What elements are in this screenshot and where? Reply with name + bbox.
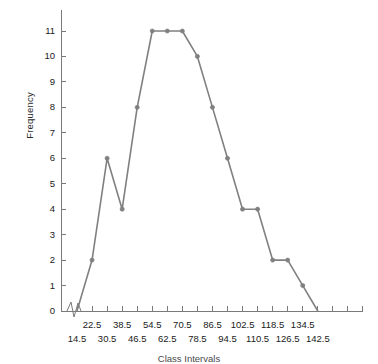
y-tick-label: 1 xyxy=(33,281,55,291)
y-tick-label: 5 xyxy=(33,179,55,189)
x-tick-label-top: 118.5 xyxy=(256,320,290,330)
y-tick-label: 8 xyxy=(33,102,55,112)
x-tick-label-top: 102.5 xyxy=(226,320,260,330)
y-tick-label: 3 xyxy=(33,230,55,240)
x-tick-label-bottom: 46.5 xyxy=(120,334,154,344)
data-point-marker xyxy=(301,283,305,287)
y-tick-label: 7 xyxy=(33,128,55,138)
x-tick-label-bottom: 30.5 xyxy=(90,334,124,344)
x-tick-label-top: 70.5 xyxy=(165,320,199,330)
data-point-marker xyxy=(195,54,199,58)
x-tick-label-bottom: 94.5 xyxy=(211,334,245,344)
x-tick-label-bottom: 14.5 xyxy=(60,334,94,344)
data-point-marker xyxy=(240,207,244,211)
y-tick-label: 9 xyxy=(33,77,55,87)
data-point-marker xyxy=(105,156,109,160)
x-tick-label-top: 54.5 xyxy=(135,320,169,330)
x-tick-label-bottom: 78.5 xyxy=(180,334,214,344)
data-point-marker xyxy=(256,207,260,211)
data-point-marker xyxy=(165,29,169,33)
x-tick-label-bottom: 110.5 xyxy=(241,334,275,344)
x-axis-title: Class Intervals xyxy=(0,353,378,364)
data-point-marker xyxy=(271,258,275,262)
data-point-marker xyxy=(180,29,184,33)
x-tick-label-bottom: 126.5 xyxy=(271,334,305,344)
y-tick-label: 11 xyxy=(33,26,55,36)
x-tick-label-top: 134.5 xyxy=(286,320,320,330)
y-tick-label: 4 xyxy=(33,204,55,214)
data-point-marker xyxy=(225,156,229,160)
y-tick-label: 2 xyxy=(33,255,55,265)
data-point-marker xyxy=(286,258,290,262)
y-tick-label: 0 xyxy=(33,306,55,316)
x-tick-label-top: 86.5 xyxy=(195,320,229,330)
data-point-marker xyxy=(90,258,94,262)
data-point-marker xyxy=(150,29,154,33)
x-tick-label-top: 38.5 xyxy=(105,320,139,330)
data-point-marker xyxy=(210,105,214,109)
x-tick-label-bottom: 62.5 xyxy=(150,334,184,344)
x-tick-label-bottom: 142.5 xyxy=(301,334,335,344)
y-tick-label: 10 xyxy=(33,51,55,61)
x-tick-label-top: 22.5 xyxy=(75,320,109,330)
data-point-marker xyxy=(135,105,139,109)
y-tick-label: 6 xyxy=(33,153,55,163)
data-point-marker xyxy=(120,207,124,211)
